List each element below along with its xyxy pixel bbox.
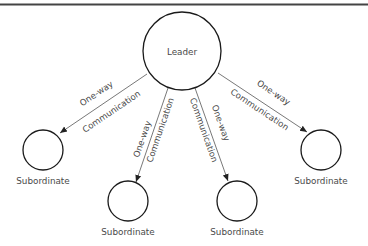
subordinate-2-label: Subordinate xyxy=(101,227,154,237)
subordinate-node-4: Subordinate xyxy=(294,130,347,186)
subordinate-3-circle xyxy=(217,181,257,221)
leader-node: Leader xyxy=(143,12,221,90)
subordinate-3-label: Subordinate xyxy=(210,227,263,237)
communication-diagram: One-way Communication One-way Communicat… xyxy=(0,0,368,246)
subordinate-node-2: Subordinate xyxy=(101,181,154,237)
subordinate-4-label: Subordinate xyxy=(294,176,347,186)
subordinate-node-3: Subordinate xyxy=(210,181,263,237)
subordinate-2-circle xyxy=(108,181,148,221)
edge-3-label-one-way: One-way xyxy=(210,103,232,142)
subordinate-1-circle xyxy=(23,130,63,170)
subordinate-1-label: Subordinate xyxy=(16,176,69,186)
edge-4-label-one-way: One-way xyxy=(255,78,292,107)
leader-label: Leader xyxy=(167,47,198,57)
subordinate-node-1: Subordinate xyxy=(16,130,69,186)
top-rule xyxy=(0,4,368,6)
edge-1-label-one-way: One-way xyxy=(78,79,115,109)
subordinate-4-circle xyxy=(301,130,341,170)
